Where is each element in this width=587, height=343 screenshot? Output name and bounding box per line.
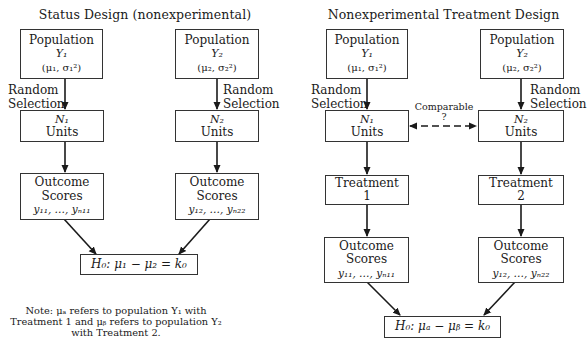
left-units-1-box: N₁ Units bbox=[20, 110, 104, 142]
outcome-line: Scores bbox=[41, 190, 82, 204]
treatment-number: 2 bbox=[517, 190, 525, 204]
right-treatment-1-box: Treatment 1 bbox=[325, 175, 409, 205]
population-variable: Y₁ bbox=[361, 47, 373, 61]
label-line: Random bbox=[223, 83, 280, 97]
population-params: (μ₂, σ₂²) bbox=[197, 61, 237, 75]
treatment-number: 1 bbox=[363, 190, 371, 204]
population-label: Population bbox=[185, 34, 250, 48]
label-line: Selection bbox=[530, 97, 587, 111]
label-line: Selection bbox=[223, 97, 280, 111]
left-population-1-box: Population Y₁ (μ₁, σ₁²) bbox=[20, 29, 103, 79]
population-variable: Y₂ bbox=[516, 47, 528, 61]
outcome-line: Outcome bbox=[35, 176, 90, 190]
treatment-label: Treatment bbox=[489, 177, 553, 191]
label-line: Selection bbox=[8, 97, 65, 111]
hypothesis-text: H₀: μ₁ − μ₂ = k₀ bbox=[91, 258, 187, 272]
population-label: Population bbox=[335, 34, 400, 48]
outcome-line: Scores bbox=[346, 253, 387, 267]
population-params: (μ₂, σ₂²) bbox=[502, 61, 542, 75]
outcome-values: y₁₁, …, yₙ₁₁ bbox=[34, 203, 91, 217]
right-random-selection-2-label: Random Selection bbox=[530, 83, 587, 111]
note-text: Note: μₐ refers to population Y₁ with Tr… bbox=[0, 305, 232, 338]
outcome-line: Outcome bbox=[339, 240, 394, 254]
population-variable: Y₂ bbox=[211, 47, 223, 61]
label-line: Random bbox=[530, 83, 587, 97]
label-line: Random bbox=[8, 83, 65, 97]
units-count: N₁ bbox=[55, 113, 69, 127]
left-random-selection-2-label: Random Selection bbox=[223, 83, 280, 111]
left-outcome-2-box: Outcome Scores y₁₂, …, yₙ₂₂ bbox=[175, 173, 259, 220]
units-label: Units bbox=[46, 126, 79, 140]
note-line: with Treatment 2. bbox=[0, 327, 232, 338]
right-population-2-box: Population Y₂ (μ₂, σ₂²) bbox=[480, 29, 564, 79]
outcome-line: Scores bbox=[196, 190, 237, 204]
population-label: Population bbox=[490, 34, 555, 48]
treatment-label: Treatment bbox=[335, 177, 399, 191]
right-units-2-box: N₂ Units bbox=[478, 110, 564, 142]
right-outcome-2-box: Outcome Scores y₁₂, …, yₙ₂₂ bbox=[478, 237, 564, 283]
right-treatment-2-box: Treatment 2 bbox=[478, 175, 564, 205]
outcome-values: y₁₂, …, yₙ₂₂ bbox=[189, 203, 246, 217]
right-outcome-1-box: Outcome Scores y₁₁, …, yₙ₁₁ bbox=[324, 237, 409, 283]
population-params: (μ₁, σ₁²) bbox=[42, 61, 82, 75]
outcome-line: Outcome bbox=[190, 176, 245, 190]
units-count: N₂ bbox=[514, 113, 528, 127]
population-params: (μ₁, σ₁²) bbox=[347, 61, 387, 75]
right-units-1-box: N₁ Units bbox=[325, 110, 409, 142]
outcome-values: y₁₂, …, yₙ₂₂ bbox=[493, 267, 550, 281]
left-random-selection-1-label: Random Selection bbox=[8, 83, 65, 111]
label-line: Random bbox=[311, 83, 368, 97]
hypothesis-text: H₀: μₐ − μᵦ = k₀ bbox=[395, 320, 490, 334]
outcome-line: Outcome bbox=[494, 240, 549, 254]
left-outcome-1-box: Outcome Scores y₁₁, …, yₙ₁₁ bbox=[20, 173, 104, 220]
comparable-label: Comparable ? bbox=[413, 102, 475, 122]
right-hypothesis-box: H₀: μₐ − μᵦ = k₀ bbox=[384, 316, 501, 338]
label-line: ? bbox=[413, 112, 475, 122]
units-count: N₂ bbox=[210, 113, 224, 127]
left-panel-title: Status Design (nonexperimental) bbox=[0, 7, 290, 22]
units-count: N₁ bbox=[360, 113, 374, 127]
left-hypothesis-box: H₀: μ₁ − μ₂ = k₀ bbox=[80, 254, 198, 275]
left-population-2-box: Population Y₂ (μ₂, σ₂²) bbox=[175, 29, 259, 79]
population-label: Population bbox=[29, 34, 94, 48]
population-variable: Y₁ bbox=[56, 47, 68, 61]
outcome-values: y₁₁, …, yₙ₁₁ bbox=[338, 267, 395, 281]
units-label: Units bbox=[351, 126, 384, 140]
right-random-selection-1-label: Random Selection bbox=[311, 83, 368, 111]
right-population-1-box: Population Y₁ (μ₁, σ₁²) bbox=[326, 29, 408, 79]
note-line: Note: μₐ refers to population Y₁ with bbox=[0, 305, 232, 316]
units-label: Units bbox=[201, 126, 234, 140]
label-line: Selection bbox=[311, 97, 368, 111]
outcome-line: Scores bbox=[500, 253, 541, 267]
units-label: Units bbox=[505, 126, 538, 140]
right-panel-title: Nonexperimental Treatment Design bbox=[300, 7, 587, 22]
left-units-2-box: N₂ Units bbox=[175, 110, 259, 142]
note-line: Treatment 1 and μᵦ refers to population … bbox=[0, 316, 232, 327]
